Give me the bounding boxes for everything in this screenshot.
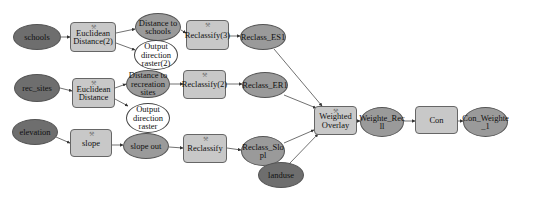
con-weighte-1-node[interactable]: Con_Weighte _1 [463,107,508,137]
elevation-data-node[interactable]: elevation [12,119,58,145]
reclass-es1-node[interactable]: Reclass_ES1 [240,24,286,50]
hammer-icon: ⚒ [203,136,208,142]
hammer-icon: ⚒ [333,108,338,114]
reclass-er1-node[interactable]: Reclass_ER1 [242,72,288,98]
edge-elevation-slope [56,137,70,143]
distance-to-recreation-sites-node[interactable]: Distance to recreation sites [126,70,170,98]
reclassify-tool[interactable]: ⚒ Reclassify [183,134,227,163]
edge-reclass-slopl-overlay [284,130,314,143]
edge-reclass-er1-overlay [284,95,316,108]
hammer-icon: ⚒ [89,131,94,137]
euclidean-distance-tool[interactable]: ⚒ Euclidean Distance [72,78,115,108]
edge-reclassify-reclass-slopl [227,148,241,150]
output-direction-raster-node[interactable]: Output direction raster [126,103,170,133]
edge-slope-out-reclassify [169,147,183,148]
reclassify-2-tool[interactable]: ⚒ Reclassify(2) [183,70,226,99]
hammer-icon: ⚒ [91,24,96,30]
edge-euclid2-dist-schools [116,29,135,33]
landuse-data-node[interactable]: landuse [258,162,304,188]
hammer-icon: ⚒ [202,72,207,78]
weighted-overlay-tool[interactable]: ⚒ Weighted Overlay [314,106,357,135]
weighte-recll-node[interactable]: Weighte_Rec ll [360,107,404,137]
schools-data-node[interactable]: schools [13,24,61,50]
edge-euclid-dist-rec [115,84,126,88]
output-direction-raster-2-node[interactable]: Output direction raster(2) [134,40,178,70]
hammer-icon: ⚒ [205,22,210,28]
edge-euclid2-outdir2 [116,43,135,50]
con-tool[interactable]: Con [415,106,458,134]
hammer-icon: ⚒ [91,80,96,86]
slope-out-node[interactable]: slope out [123,133,169,159]
edge-rec-sites-euclid [60,88,72,91]
model-diagram: schools ⚒ Euclidean Distance(2) Distance… [0,0,534,200]
slope-tool[interactable]: ⚒ slope [70,129,112,157]
rec-sites-data-node[interactable]: rec_sites [14,74,60,102]
distance-to-schools-node[interactable]: Distance to schools [135,13,181,41]
reclassify-3-tool[interactable]: ⚒ Reclassify(3) [186,20,229,50]
euclidean-distance-2-tool[interactable]: ⚒ Euclidean Distance(2) [70,22,116,52]
